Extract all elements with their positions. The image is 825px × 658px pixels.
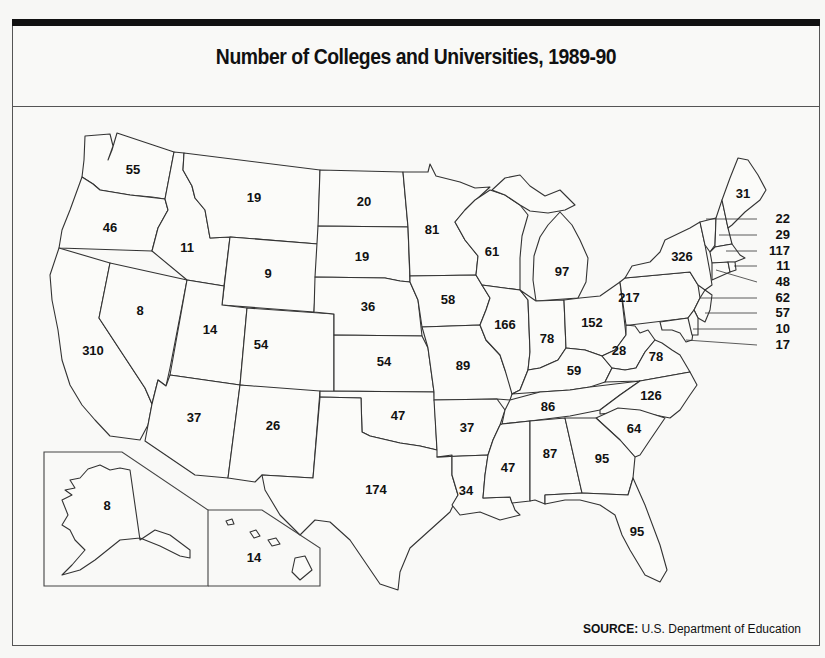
label-fl: 95: [630, 524, 644, 539]
source-text: U.S. Department of Education: [642, 622, 801, 636]
label-wv: 28: [612, 343, 626, 358]
label-nv: 8: [136, 303, 143, 318]
hawaii-island-kauai[interactable]: [226, 519, 234, 525]
state-ak[interactable]: [62, 465, 190, 575]
label-id: 11: [180, 240, 194, 255]
label-nm: 26: [266, 418, 280, 433]
label-mn: 81: [425, 222, 439, 237]
hawaii-island-maui[interactable]: [268, 538, 280, 546]
label-wa: 55: [126, 162, 140, 177]
label-me: 31: [736, 186, 750, 201]
label-sc: 64: [627, 421, 642, 436]
label-mi: 97: [555, 264, 569, 279]
label-la: 34: [459, 483, 474, 498]
label-ca: 310: [82, 343, 104, 358]
label-vt: 22: [776, 211, 790, 226]
state-ma[interactable]: [710, 244, 745, 263]
label-tx: 174: [365, 482, 387, 497]
label-ky: 59: [567, 363, 581, 378]
state-fl[interactable]: [545, 478, 667, 582]
us-map: 55 46 310 8 11 19 9 14 54 37 26 20 19 36…: [0, 0, 825, 658]
source-label: SOURCE:: [583, 622, 638, 636]
label-wy: 9: [264, 266, 271, 281]
label-mo: 89: [456, 358, 470, 373]
hawaii-island-big[interactable]: [292, 556, 312, 580]
label-or: 46: [103, 220, 117, 235]
label-ny: 326: [671, 249, 693, 264]
source-note: SOURCE: U.S. Department of Education: [583, 622, 801, 636]
label-nj: 62: [776, 290, 790, 305]
label-wi: 61: [485, 244, 499, 259]
label-pa: 217: [618, 290, 640, 305]
label-nh: 29: [776, 227, 790, 242]
label-ga: 95: [595, 451, 609, 466]
label-ri: 11: [776, 258, 790, 273]
label-il: 166: [494, 317, 516, 332]
label-ct: 48: [776, 274, 790, 289]
label-mt: 19: [247, 190, 261, 205]
label-ak: 8: [103, 498, 110, 513]
label-sd: 19: [355, 249, 369, 264]
label-hi: 14: [247, 550, 262, 565]
label-az: 37: [187, 410, 201, 425]
state-az[interactable]: [145, 375, 240, 478]
label-ar: 37: [460, 420, 474, 435]
label-in: 78: [540, 331, 554, 346]
label-co: 54: [254, 337, 269, 352]
label-al: 87: [543, 446, 557, 461]
label-va: 78: [649, 349, 663, 364]
state-ri[interactable]: [728, 262, 736, 272]
label-oh: 152: [581, 315, 603, 330]
state-ct[interactable]: [712, 262, 730, 280]
label-ks: 54: [377, 354, 392, 369]
label-nd: 20: [357, 194, 371, 209]
label-nc: 126: [640, 388, 662, 403]
label-ia: 58: [441, 292, 455, 307]
label-ma: 117: [769, 243, 790, 258]
state-nm[interactable]: [228, 385, 320, 482]
label-ut: 14: [203, 322, 218, 337]
label-md: 57: [776, 305, 790, 320]
hawaii-island-oahu[interactable]: [250, 530, 260, 538]
label-ms: 47: [501, 460, 515, 475]
label-ne: 36: [361, 299, 375, 314]
label-dc: 17: [776, 337, 790, 352]
label-ok: 47: [391, 408, 405, 423]
label-tn: 86: [541, 399, 555, 414]
label-de: 10: [776, 321, 790, 336]
